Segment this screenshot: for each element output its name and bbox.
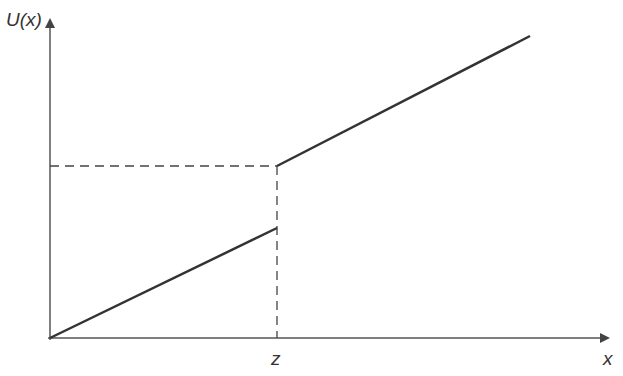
z-tick-label: z (271, 348, 281, 370)
chart-canvas (0, 0, 623, 376)
y-axis-label: U(x) (6, 9, 42, 31)
upper-segment (277, 36, 530, 166)
x-axis-label: x (603, 348, 613, 370)
lower-segment (50, 228, 277, 338)
